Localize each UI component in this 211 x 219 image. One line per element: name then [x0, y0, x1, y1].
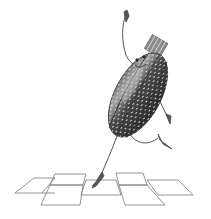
back-leg: [130, 134, 172, 149]
eye-left: [136, 59, 138, 61]
hopscotch-beetle-drawing: [0, 0, 211, 219]
grid-square: [81, 180, 121, 195]
grid-square: [41, 185, 83, 205]
eye-right: [143, 56, 145, 58]
illustration: Pencil illustration of an anthropomorphi…: [0, 0, 211, 219]
raised-hand: [124, 10, 129, 22]
raised-arm: [123, 10, 136, 66]
back-foot: [158, 134, 172, 149]
grid-square: [116, 173, 147, 185]
hopscotch-grid: [15, 173, 193, 205]
grid-square: [15, 178, 55, 193]
grid-square: [50, 174, 86, 185]
right-hand: [166, 114, 171, 124]
